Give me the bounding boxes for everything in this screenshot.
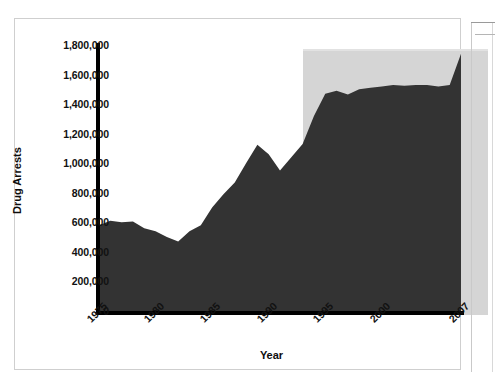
y-axis-tick-label: 1,000,000 (25, 158, 109, 169)
x-axis-title: Year (0, 349, 495, 361)
y-axis-tick-label: 1,200,000 (25, 129, 109, 140)
y-axis-tick-label: 200,000 (25, 276, 109, 287)
page-rule-horizontal-secondary (475, 34, 495, 35)
chart-figure-frame: 1,800,0001,600,0001,400,0001,200,0001,00… (14, 18, 461, 370)
drug-arrests-area-series (99, 45, 461, 311)
y-axis-tick-label: 1,600,000 (25, 70, 109, 81)
x-axis-title-text: Year (260, 349, 283, 361)
y-axis-tick-labels: 1,800,0001,600,0001,400,0001,200,0001,00… (19, 19, 109, 388)
y-axis-tick-label: 800,000 (25, 188, 109, 199)
y-axis-tick-label: 1,400,000 (25, 99, 109, 110)
area-series-polygon (99, 54, 461, 311)
y-axis-tick-label: 1,800,000 (25, 40, 109, 51)
y-axis-tick-label: 400,000 (25, 247, 109, 258)
page-rule-horizontal (471, 22, 495, 23)
y-axis-tick-label: 600,000 (25, 217, 109, 228)
page-rule-vertical-outer (492, 22, 493, 372)
y-axis-title: Drug Arrests (12, 147, 23, 214)
page-rule-vertical (471, 22, 472, 372)
